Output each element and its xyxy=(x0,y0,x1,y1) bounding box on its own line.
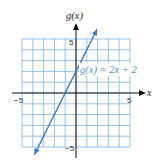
x-axis-label: x xyxy=(146,87,152,98)
y-axis-label: g(x) xyxy=(66,10,83,22)
function-graph: g(x) = 2x + 2 g(x) x −5 5 5 −5 xyxy=(0,0,161,165)
equation-label: g(x) = 2x + 2 xyxy=(80,64,137,76)
x-tick-neg5: −5 xyxy=(14,96,24,105)
x-tick-5: 5 xyxy=(127,96,132,105)
y-tick-5: 5 xyxy=(69,38,74,47)
x-axis-arrow-icon xyxy=(139,90,146,96)
y-axis-arrow-icon xyxy=(73,23,79,30)
y-tick-neg5: −5 xyxy=(65,144,75,153)
